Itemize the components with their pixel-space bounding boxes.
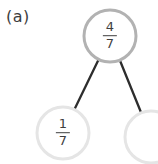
left-child-fraction: 1 7 bbox=[56, 117, 70, 149]
root-fraction: 4 7 bbox=[103, 20, 117, 52]
left-child-fraction-numerator: 1 bbox=[56, 117, 70, 133]
root-fraction-numerator: 4 bbox=[103, 20, 117, 36]
left-child-fraction-denominator: 7 bbox=[56, 134, 70, 149]
fraction-tree-diagram bbox=[0, 0, 158, 164]
fraction-tree-panel: (a) 4 7 1 7 bbox=[0, 0, 158, 164]
right-child-circle-empty bbox=[125, 111, 158, 163]
root-fraction-denominator: 7 bbox=[103, 37, 117, 52]
